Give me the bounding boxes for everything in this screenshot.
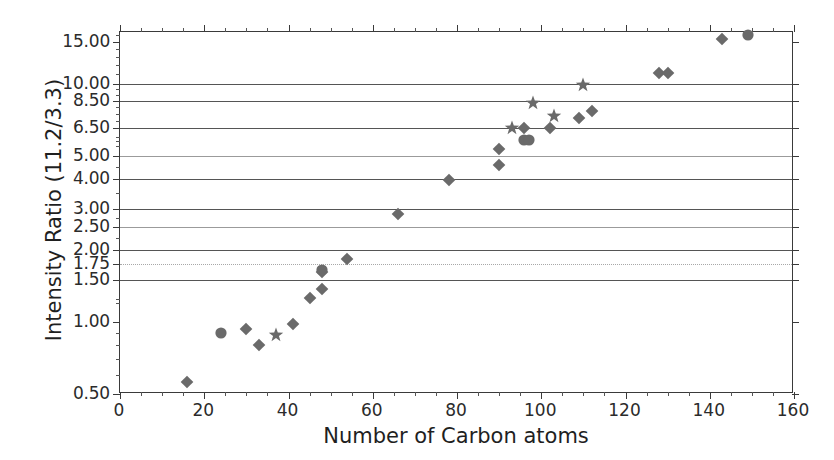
data-point-star	[575, 77, 591, 93]
data-point-star	[268, 327, 284, 343]
x-tick-label: 100	[524, 400, 556, 420]
x-tick-major	[289, 392, 290, 399]
x-tick-major	[457, 392, 458, 399]
data-points	[120, 32, 792, 392]
data-point-diamond	[340, 252, 354, 266]
y-axis-title: Intensity Ratio (11.2/3.3)	[42, 20, 66, 400]
x-tick-label: 160	[777, 400, 809, 420]
x-tick-minor	[267, 392, 268, 396]
data-point-diamond	[492, 158, 506, 172]
y-tick-right	[792, 156, 799, 157]
x-tick-top	[457, 25, 458, 32]
x-tick-minor	[773, 392, 774, 396]
data-point-diamond	[239, 322, 253, 336]
data-point-diamond	[180, 375, 194, 389]
y-tick-right	[792, 227, 799, 228]
y-tick-major	[113, 128, 120, 129]
x-tick-minor	[731, 392, 732, 396]
y-tick-major	[113, 101, 120, 102]
x-tick-top	[373, 25, 374, 32]
x-tick-minor	[141, 392, 142, 396]
y-tick-major	[113, 280, 120, 281]
x-tick-minor	[331, 392, 332, 396]
data-point-star	[525, 95, 541, 111]
y-tick-label: 1.00	[73, 311, 110, 331]
x-tick-major	[794, 392, 795, 399]
y-tick-label: 3.00	[73, 198, 110, 218]
data-point-circle	[315, 263, 329, 277]
x-tick-minor	[162, 392, 163, 396]
x-tick-minor	[183, 392, 184, 396]
x-tick-label: 20	[192, 400, 214, 420]
y-tick-major	[113, 322, 120, 323]
x-tick-label: 140	[693, 400, 725, 420]
y-tick-label: 4.00	[73, 168, 110, 188]
y-tick-label: 5.00	[73, 145, 110, 165]
x-tick-top	[710, 25, 711, 32]
y-tick-label: 15.00	[62, 31, 110, 51]
data-point-diamond	[391, 207, 405, 221]
x-tick-top	[289, 25, 290, 32]
x-tick-label: 120	[608, 400, 640, 420]
y-tick-major	[113, 179, 120, 180]
y-tick-right	[792, 280, 799, 281]
data-point-circle	[214, 326, 228, 340]
y-tick-major	[113, 264, 120, 265]
x-tick-minor	[752, 392, 753, 396]
data-point-star	[504, 120, 520, 136]
y-tick-major	[113, 250, 120, 251]
data-point-circle	[741, 28, 755, 42]
y-tick-right	[792, 264, 799, 265]
x-tick-top	[120, 25, 121, 32]
data-point-diamond	[661, 66, 675, 80]
y-tick-label: 2.50	[73, 216, 110, 236]
y-tick-right	[792, 84, 799, 85]
data-point-star	[546, 108, 562, 124]
x-tick-label: 60	[361, 400, 383, 420]
x-tick-major	[373, 392, 374, 399]
x-tick-minor	[647, 392, 648, 396]
x-tick-major	[541, 392, 542, 399]
x-tick-label: 80	[445, 400, 467, 420]
x-tick-minor	[499, 392, 500, 396]
plot-area	[119, 31, 793, 393]
chart-figure: 0.501.001.501.752.002.503.004.005.006.50…	[0, 0, 834, 460]
data-point-diamond	[442, 173, 456, 187]
x-tick-minor	[520, 392, 521, 396]
y-tick-right	[792, 209, 799, 210]
x-axis-tick-labels: 020406080100120140160	[119, 400, 793, 424]
x-tick-major	[626, 392, 627, 399]
x-tick-minor	[478, 392, 479, 396]
x-tick-minor	[310, 392, 311, 396]
x-tick-minor	[668, 392, 669, 396]
y-tick-major	[113, 227, 120, 228]
x-tick-minor	[246, 392, 247, 396]
data-point-diamond	[252, 338, 266, 352]
x-tick-minor	[562, 392, 563, 396]
y-tick-right	[792, 42, 799, 43]
x-tick-major	[204, 392, 205, 399]
x-tick-minor	[689, 392, 690, 396]
x-tick-minor	[436, 392, 437, 396]
x-tick-label: 0	[114, 400, 125, 420]
y-tick-right	[792, 250, 799, 251]
x-tick-label: 40	[277, 400, 299, 420]
y-tick-right	[792, 101, 799, 102]
data-point-diamond	[286, 317, 300, 331]
x-tick-major	[710, 392, 711, 399]
data-point-circle	[522, 133, 536, 147]
data-point-diamond	[315, 282, 329, 296]
x-tick-minor	[604, 392, 605, 396]
y-tick-major	[113, 209, 120, 210]
data-point-diamond	[585, 104, 599, 118]
x-tick-minor	[415, 392, 416, 396]
x-tick-minor	[225, 392, 226, 396]
x-tick-minor	[352, 392, 353, 396]
x-tick-minor	[394, 392, 395, 396]
y-tick-label: 0.50	[73, 383, 110, 403]
y-tick-label: 2.00	[73, 239, 110, 259]
x-axis-title: Number of Carbon atoms	[119, 424, 793, 448]
y-tick-major	[113, 42, 120, 43]
x-tick-top	[794, 25, 795, 32]
y-tick-label: 10.00	[62, 73, 110, 93]
